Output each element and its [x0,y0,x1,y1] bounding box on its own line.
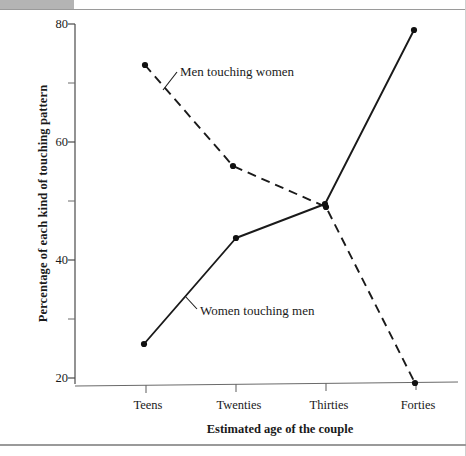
line-chart: 80 60 40 20 Teens Twenties Thirties Fort… [0,0,466,456]
x-tick-label-forties: Forties [378,398,458,413]
data-point-women-teens [141,341,147,347]
data-point-women-twenties [233,235,239,241]
x-axis-title: Estimated age of the couple [120,422,440,437]
x-axis-line [75,382,458,386]
data-point-men-forties [412,380,418,386]
data-point-men-twenties [230,163,236,169]
data-point-women-forties [411,27,417,33]
y-tick-label-20: 20 [34,371,68,386]
leader-line-women [185,296,197,309]
y-tick-label-80: 80 [34,17,68,32]
series-annotation-women-touching-men: Women touching men [200,303,315,319]
x-tick-label-thirties: Thirties [289,398,369,413]
data-point-men-teens [142,62,148,68]
series-annotation-men-touching-women: Men touching women [180,64,294,80]
x-tick-label-teens: Teens [108,398,188,413]
series-line-men-touching-women [145,65,415,383]
data-point-women-thirties [322,201,328,207]
leader-line-men [163,72,177,90]
y-axis-title: Percentage of each kind of touching patt… [36,64,51,344]
chart-page: 80 60 40 20 Teens Twenties Thirties Fort… [0,0,466,456]
x-tick-label-twenties: Twenties [199,398,279,413]
